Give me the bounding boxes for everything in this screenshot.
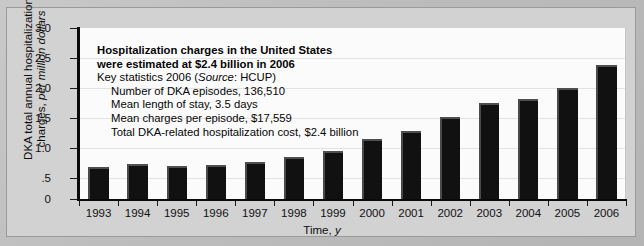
bar-2006	[596, 65, 616, 199]
list-item: Mean length of stay, 3.5 days	[111, 98, 427, 112]
x-axis-title-italic: y	[335, 224, 341, 236]
gridline-0.5	[79, 178, 625, 179]
bar-1997	[245, 162, 265, 199]
x-tick-mark-1997	[235, 201, 236, 206]
y-tick-label-0: 0	[7, 194, 51, 205]
x-tick-label-2003: 2003	[469, 207, 509, 219]
x-tick-label-1996: 1996	[196, 207, 236, 219]
y-tick-mark-1.5	[70, 118, 77, 119]
x-tick-label-1993: 1993	[79, 207, 119, 219]
bar-1999	[323, 151, 343, 199]
x-tick-label-2006: 2006	[586, 207, 626, 219]
chart-panel: DKA total annual hospitalization charges…	[6, 7, 636, 237]
y-tick-mark-0	[70, 199, 77, 200]
keystats-source-italic: Source	[198, 71, 234, 83]
x-tick-mark-end	[626, 201, 627, 206]
annotation-headline-line2: were estimated at $2.4 billion in 2006	[97, 58, 427, 72]
list-item: Number of DKA episodes, 136,510	[111, 85, 427, 99]
x-tick-mark-2004	[509, 201, 510, 206]
x-tick-label-1999: 1999	[313, 207, 353, 219]
bar-1995	[167, 166, 187, 199]
x-tick-mark-2003	[470, 201, 471, 206]
bar-1993	[88, 167, 108, 199]
x-tick-mark-1998	[274, 201, 275, 206]
annotation-stats-list: Number of DKA episodes, 136,510 Mean len…	[97, 85, 427, 139]
y-tick-label-2.5: 2.5	[7, 53, 51, 64]
annotation-keystats-header: Key statistics 2006 (Source: HCUP)	[97, 71, 427, 85]
x-tick-mark-1995	[157, 201, 158, 206]
x-tick-mark-1999	[313, 201, 314, 206]
x-tick-label-2004: 2004	[508, 207, 548, 219]
y-tick-label-2.0: 2.0	[7, 83, 51, 94]
x-tick-mark-2001	[392, 201, 393, 206]
annotation-textblock: Hospitalization charges in the United St…	[97, 44, 427, 139]
bar-2001	[401, 131, 421, 199]
gridline-1.0	[79, 148, 625, 149]
y-tick-label-0.5: .5	[7, 173, 51, 184]
x-tick-label-2001: 2001	[391, 207, 431, 219]
x-tick-mark-1994	[118, 201, 119, 206]
keystats-source-rest: : HCUP)	[234, 71, 276, 83]
bar-2002	[440, 117, 460, 199]
y-tick-mark-0.5	[70, 178, 77, 179]
bar-2004	[518, 99, 538, 199]
x-tick-label-1998: 1998	[274, 207, 314, 219]
y-tick-label-1.5: 1.5	[7, 113, 51, 124]
bar-1996	[206, 165, 226, 199]
keystats-label: Key statistics 2006 (	[97, 71, 198, 83]
y-axis-line	[77, 27, 80, 201]
x-tick-label-1997: 1997	[235, 207, 275, 219]
y-tick-mark-2.5	[70, 58, 77, 59]
list-item: Total DKA-related hospitalization cost, …	[111, 126, 427, 140]
bar-2000	[362, 139, 382, 199]
x-tick-label-1995: 1995	[157, 207, 197, 219]
annotation-headline-line1: Hospitalization charges in the United St…	[97, 44, 427, 58]
x-tick-label-2002: 2002	[430, 207, 470, 219]
x-tick-mark-2006	[587, 201, 588, 206]
x-tick-mark-1996	[196, 201, 197, 206]
x-tick-mark-2000	[353, 201, 354, 206]
y-tick-label-3.0: 3.0	[7, 23, 51, 34]
x-axis-title-plain: Time,	[303, 224, 335, 236]
x-tick-label-1994: 1994	[118, 207, 158, 219]
bar-2005	[557, 88, 577, 199]
x-axis-title: Time, y	[7, 224, 637, 236]
x-tick-mark-2002	[431, 201, 432, 206]
y-tick-label-1.0: 1.0	[7, 143, 51, 154]
y-tick-mark-3.0	[70, 28, 77, 29]
x-tick-label-2005: 2005	[547, 207, 587, 219]
x-tick-mark-2005	[548, 201, 549, 206]
bar-1998	[284, 157, 304, 199]
bar-1994	[127, 164, 147, 199]
figure-canvas: DKA total annual hospitalization charges…	[0, 0, 644, 246]
y-tick-mark-2.0	[70, 88, 77, 89]
x-tick-label-2000: 2000	[352, 207, 392, 219]
list-item: Mean charges per episode, $17,559	[111, 112, 427, 126]
x-tick-mark-1993	[79, 201, 80, 206]
y-tick-mark-1.0	[70, 148, 77, 149]
bar-2003	[479, 103, 499, 199]
